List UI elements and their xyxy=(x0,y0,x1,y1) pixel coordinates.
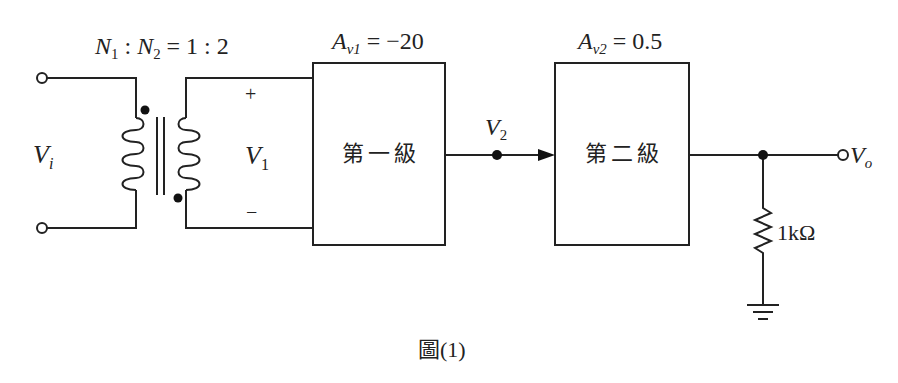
figure-caption: 圖(1) xyxy=(418,339,466,361)
turns-ratio-label: N1 : N2 = 1 : 2 xyxy=(95,34,229,62)
v1-label: V1 xyxy=(245,143,269,173)
minus-sign: − xyxy=(246,202,257,222)
v2-label: V2 xyxy=(485,115,507,143)
input-voltage-label: Vi xyxy=(33,142,53,172)
output-terminal xyxy=(838,150,848,160)
stage1-name: 第一級 xyxy=(342,143,420,165)
node-output xyxy=(758,150,768,160)
resistor-label: 1kΩ xyxy=(777,222,815,244)
stage1-gain-label: Av1 = −20 xyxy=(332,29,424,57)
output-voltage-label: Vo xyxy=(850,143,872,171)
plus-sign: + xyxy=(245,84,256,104)
stage2-gain-label: Av2 = 0.5 xyxy=(578,29,662,57)
arrow-icon xyxy=(538,149,555,161)
input-terminal-bottom xyxy=(37,223,47,233)
dot-primary xyxy=(141,106,150,115)
dot-secondary xyxy=(174,194,183,203)
node-v2 xyxy=(492,150,502,160)
resistor-icon xyxy=(755,155,771,305)
primary-wire xyxy=(47,78,136,228)
input-terminal-top xyxy=(37,73,47,83)
primary-coil-icon xyxy=(123,118,144,190)
stage2-name: 第二級 xyxy=(585,143,663,165)
secondary-coil-icon xyxy=(179,118,200,190)
